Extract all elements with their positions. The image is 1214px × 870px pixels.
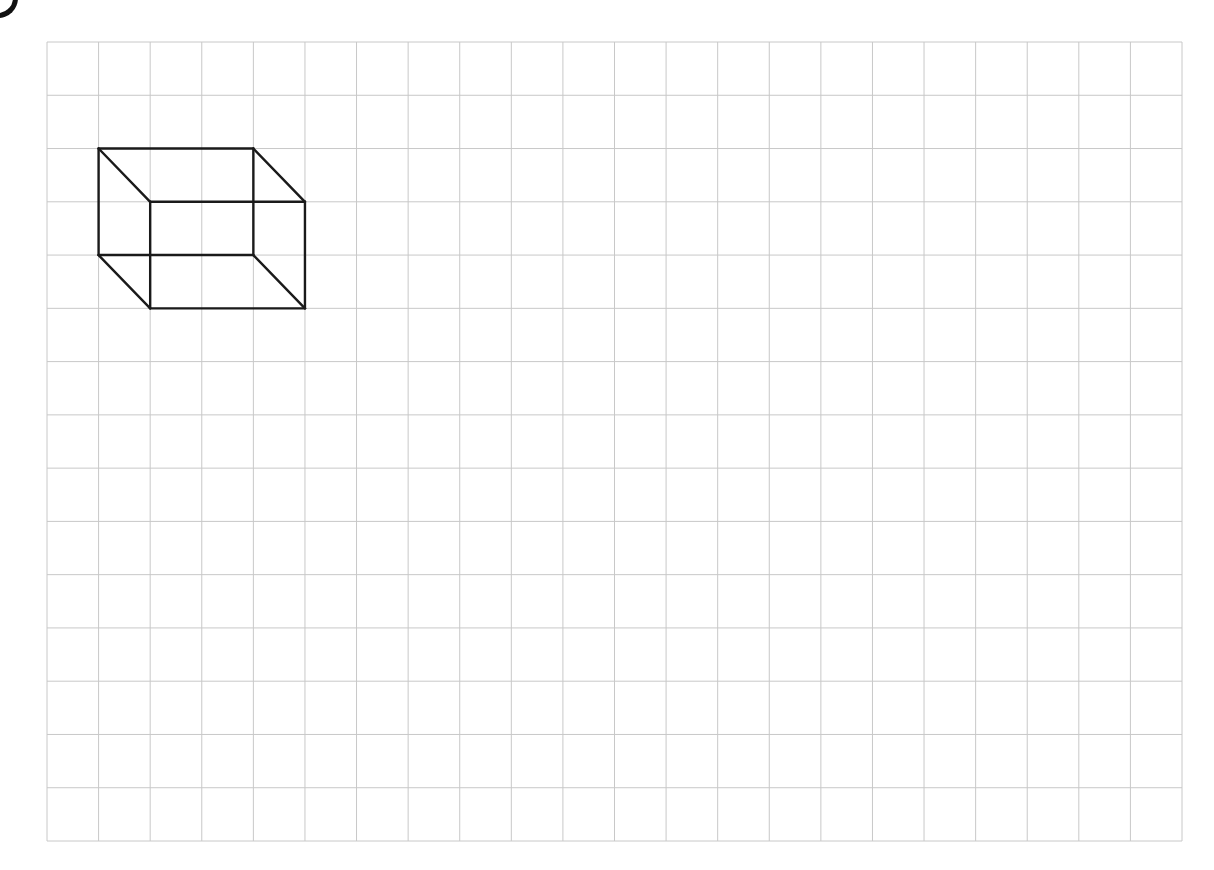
grid-lines xyxy=(47,42,1182,841)
cuboid-depth-edge xyxy=(253,255,305,308)
cuboid-depth-edge xyxy=(253,149,305,202)
cuboid-depth-edge xyxy=(99,255,151,308)
cuboid-depth-edge xyxy=(99,149,151,202)
grid-diagram xyxy=(0,0,1214,870)
